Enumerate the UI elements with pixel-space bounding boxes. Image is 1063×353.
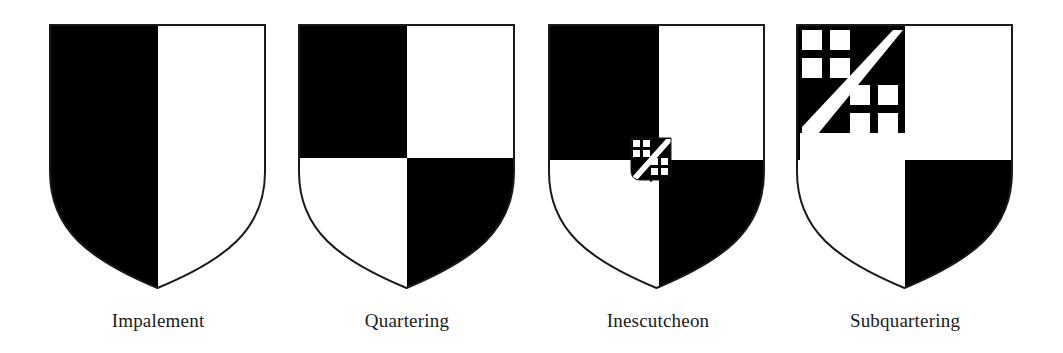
caption-quartering: Quartering <box>365 310 449 332</box>
caption-subquartering: Subquartering <box>850 310 960 332</box>
shield-subquartering <box>797 25 1015 300</box>
shield-quartering <box>299 25 517 298</box>
caption-inescutcheon: Inescutcheon <box>607 310 710 332</box>
caption-impalement: Impalement <box>112 310 205 332</box>
shield-impalement <box>50 25 268 295</box>
inescutcheon-small-shield <box>631 138 671 184</box>
shield-inescutcheon <box>549 25 769 300</box>
heraldry-figure: Impalement Quartering Inescutcheon Subqu… <box>0 0 1063 353</box>
